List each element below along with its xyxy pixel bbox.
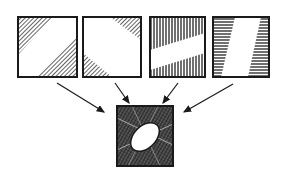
composite-square xyxy=(117,106,173,166)
arrow-1 xyxy=(57,83,104,112)
arrow-2 xyxy=(115,83,129,103)
square-vertical-band xyxy=(213,17,269,77)
square-horizontal-band xyxy=(150,17,205,77)
square-corner-triangles xyxy=(83,17,141,77)
square-diagonal-band xyxy=(18,17,77,77)
arrow-3 xyxy=(163,83,178,103)
arrow-4 xyxy=(184,84,233,112)
diagram-canvas xyxy=(0,0,286,181)
